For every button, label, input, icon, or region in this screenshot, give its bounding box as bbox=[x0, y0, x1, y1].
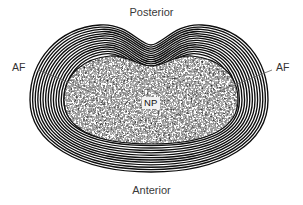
disc-figure: Posterior Anterior AF AF NP bbox=[0, 0, 303, 205]
nucleus-pulposus-label: NP bbox=[142, 97, 160, 109]
annulus-fibrosus-label-left: AF bbox=[12, 62, 25, 73]
anterior-label: Anterior bbox=[0, 185, 303, 196]
posterior-label: Posterior bbox=[0, 7, 303, 18]
annulus-fibrosus-label-right: AF bbox=[276, 62, 289, 73]
